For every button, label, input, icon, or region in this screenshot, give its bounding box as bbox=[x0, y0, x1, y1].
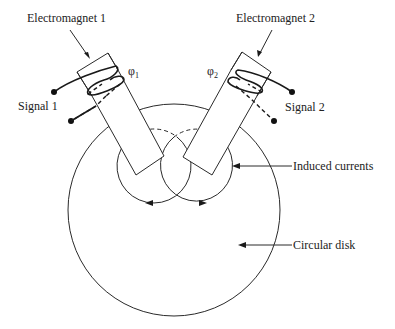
label-induced-currents: Induced currents bbox=[293, 159, 374, 173]
electromagnet-1 bbox=[51, 53, 164, 175]
label-signal-2: Signal 2 bbox=[285, 100, 325, 114]
signal-1-terminal-a bbox=[51, 89, 57, 95]
arrowhead-induced-currents-icon bbox=[232, 163, 240, 169]
electromagnet-2 bbox=[183, 52, 295, 175]
label-signal-1: Signal 1 bbox=[18, 99, 58, 113]
circular-disk bbox=[68, 104, 280, 316]
flux-1-subscript: 1 bbox=[135, 71, 139, 80]
label-flux-1: φ1 bbox=[128, 64, 139, 80]
label-flux-2: φ2 bbox=[207, 64, 218, 80]
flux-1-symbol: φ bbox=[128, 64, 135, 78]
label-electromagnet-2: Electromagnet 2 bbox=[236, 11, 315, 25]
label-circular-disk: Circular disk bbox=[293, 238, 355, 252]
signal-2-terminal-a bbox=[289, 89, 295, 95]
eddy-current-diagram: Electromagnet 1 Electromagnet 2 Signal 1… bbox=[0, 0, 395, 329]
signal-2-terminal-b bbox=[271, 118, 277, 124]
label-electromagnet-1: Electromagnet 1 bbox=[27, 11, 106, 25]
arrowhead-electromagnet-1-icon bbox=[84, 52, 90, 59]
flux-2-symbol: φ bbox=[207, 64, 214, 78]
current-arrow-left-icon bbox=[145, 200, 153, 206]
arrowhead-circular-disk-icon bbox=[238, 242, 246, 248]
flux-2-subscript: 2 bbox=[214, 71, 218, 80]
